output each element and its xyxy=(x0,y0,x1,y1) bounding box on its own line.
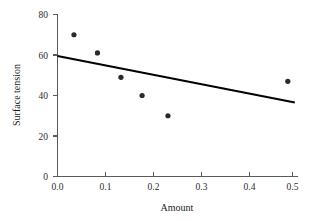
data-point xyxy=(95,50,100,55)
regression-line xyxy=(58,56,295,103)
y-tick-label-0: 0 xyxy=(43,172,48,182)
data-point xyxy=(165,113,170,118)
x-axis-ticks xyxy=(58,172,293,177)
data-points-group xyxy=(71,32,290,118)
y-tick-label-60: 60 xyxy=(39,51,49,61)
x-tick-label-0.4: 0.4 xyxy=(244,182,256,192)
scatter-plot-figure: 0 20 40 60 80 0.0 0.1 0.2 0.3 0.4 0.5 xyxy=(0,0,314,221)
y-axis-tick-labels: 0 20 40 60 80 xyxy=(39,10,49,182)
data-point xyxy=(118,75,123,80)
x-tick-label-0.1: 0.1 xyxy=(100,182,112,192)
data-point xyxy=(140,93,145,98)
y-axis-title: Surface tension xyxy=(11,64,22,126)
plot-canvas: 0 20 40 60 80 0.0 0.1 0.2 0.3 0.4 0.5 xyxy=(0,0,314,221)
x-axis-title: Amount xyxy=(161,202,194,213)
x-tick-label-0.5: 0.5 xyxy=(287,182,299,192)
x-tick-label-0.0: 0.0 xyxy=(52,182,64,192)
data-point xyxy=(285,79,290,84)
x-axis-tick-labels: 0.0 0.1 0.2 0.3 0.4 0.5 xyxy=(52,182,299,192)
y-tick-label-80: 80 xyxy=(39,10,49,20)
x-tick-label-0.3: 0.3 xyxy=(196,182,208,192)
data-point xyxy=(71,32,76,37)
y-tick-label-20: 20 xyxy=(39,132,49,142)
y-tick-label-40: 40 xyxy=(39,91,49,101)
x-tick-label-0.2: 0.2 xyxy=(148,182,160,192)
y-axis-ticks xyxy=(53,15,58,177)
